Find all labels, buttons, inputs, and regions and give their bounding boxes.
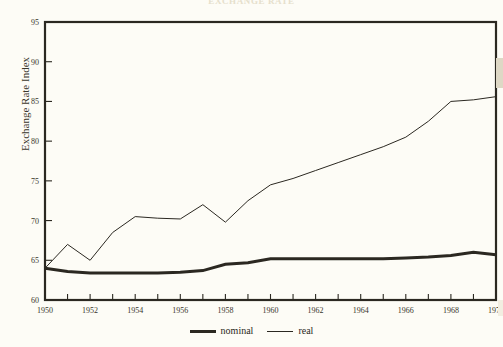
x-tick-label: 1950 bbox=[37, 306, 53, 315]
legend-line-nominal-icon bbox=[190, 330, 216, 333]
x-tick-label: 1956 bbox=[172, 306, 188, 315]
y-tick-label: 65 bbox=[31, 256, 39, 265]
x-tick-label: 1958 bbox=[217, 306, 233, 315]
x-tick-label: 1964 bbox=[353, 306, 369, 315]
legend-entry-real: real bbox=[267, 326, 313, 336]
y-tick-label: 95 bbox=[31, 18, 39, 27]
series-line-real bbox=[45, 97, 496, 269]
x-tick-label: 1952 bbox=[82, 306, 98, 315]
legend-line-real-icon bbox=[267, 331, 293, 332]
legend-label-nominal: nominal bbox=[221, 326, 254, 336]
y-tick-label: 80 bbox=[31, 137, 39, 146]
series-line-nominal bbox=[45, 252, 496, 273]
page-edge-artifact-lower bbox=[498, 300, 503, 316]
legend-label-real: real bbox=[298, 326, 313, 336]
plot-area: 6065707580859095195019521954195619581960… bbox=[0, 0, 503, 347]
y-tick-label: 70 bbox=[31, 217, 39, 226]
x-tick-label: 1966 bbox=[398, 306, 414, 315]
chart-figure: EXCHANGE RATE Exchange Rate Index 606570… bbox=[0, 0, 503, 347]
x-tick-label: 1968 bbox=[443, 306, 459, 315]
y-tick-label: 90 bbox=[31, 58, 39, 67]
y-tick-label: 85 bbox=[31, 97, 39, 106]
x-tick-label: 1954 bbox=[127, 306, 143, 315]
page-edge-artifact bbox=[496, 58, 503, 88]
legend-entry-nominal: nominal bbox=[190, 326, 254, 336]
chart-legend: nominal real bbox=[0, 326, 503, 336]
x-tick-label: 1962 bbox=[308, 306, 324, 315]
x-tick-label: 1960 bbox=[263, 306, 279, 315]
y-tick-label: 60 bbox=[31, 296, 39, 305]
y-tick-label: 75 bbox=[31, 177, 39, 186]
